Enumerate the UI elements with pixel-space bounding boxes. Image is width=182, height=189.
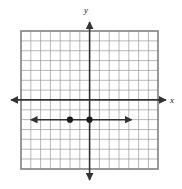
y-axis-label: y — [83, 5, 88, 15]
plotted-point-2 — [86, 117, 92, 123]
plotted-point-1 — [67, 117, 73, 123]
coordinate-plane-figure: y x — [0, 0, 182, 189]
graph-canvas: y x — [0, 0, 182, 189]
x-axis-label: x — [169, 95, 174, 105]
